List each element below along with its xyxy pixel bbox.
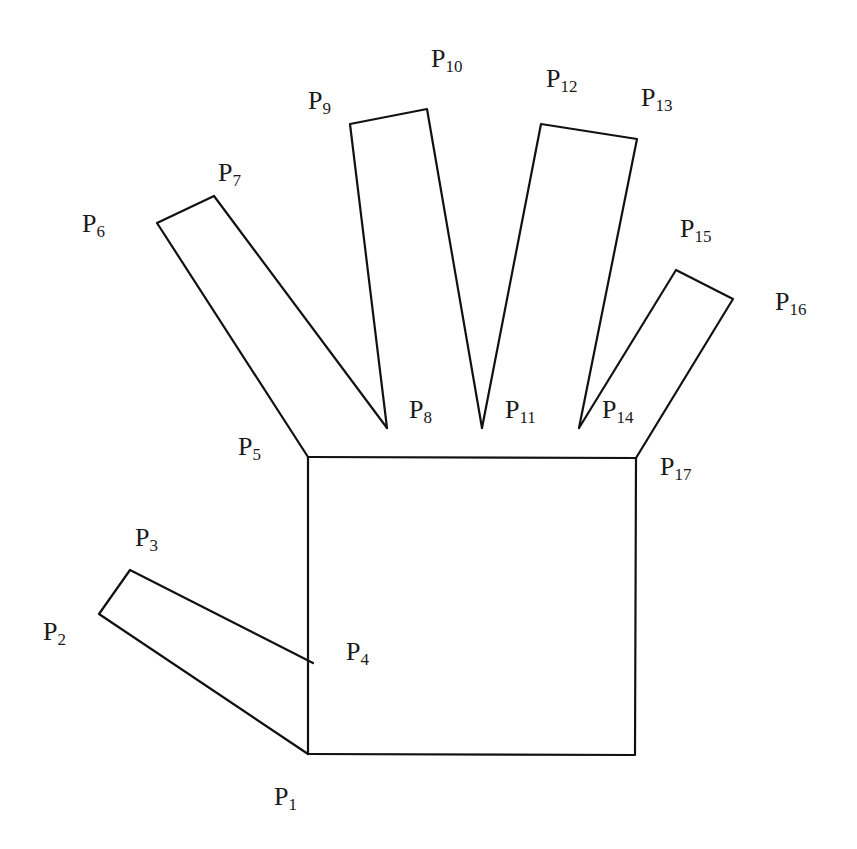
middle-finger [350, 109, 482, 428]
label-p8: P8 [409, 395, 432, 427]
label-p14: P14 [602, 395, 634, 427]
label-p13: P13 [641, 83, 672, 115]
thumb-finger [99, 570, 313, 754]
label-p11: P11 [505, 395, 536, 427]
palm-bottom-edge [308, 458, 636, 755]
label-p6: P6 [82, 209, 105, 241]
hand-outline [99, 109, 733, 755]
hand-diagram: P1 P2 P3 P4 P5 P6 P7 P8 P9 P10 P11 P12 P… [0, 0, 857, 849]
label-p1: P1 [274, 782, 297, 814]
label-p7: P7 [218, 158, 241, 190]
label-p9: P9 [308, 86, 331, 118]
index-finger [157, 196, 387, 457]
label-p3: P3 [135, 523, 158, 555]
label-p4: P4 [346, 637, 369, 669]
label-p15: P15 [680, 214, 711, 246]
palm-top-edge [308, 457, 636, 458]
label-p5: P5 [238, 432, 261, 464]
label-p12: P12 [546, 64, 577, 96]
vertex-labels: P1 P2 P3 P4 P5 P6 P7 P8 P9 P10 P11 P12 P… [43, 44, 806, 814]
label-p16: P16 [775, 287, 806, 319]
label-p17: P17 [660, 452, 692, 484]
label-p2: P2 [43, 617, 66, 649]
label-p10: P10 [431, 44, 462, 76]
ring-finger [482, 124, 637, 428]
little-finger [579, 270, 733, 458]
